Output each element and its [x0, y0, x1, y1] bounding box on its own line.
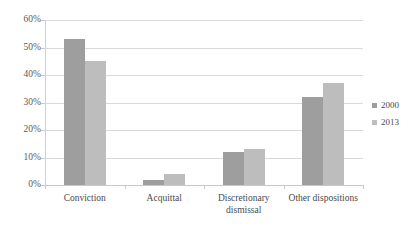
x-axis-category-label: Other dispositions — [272, 192, 376, 204]
legend-swatch-icon — [372, 120, 377, 125]
bar-2000-acquittal — [143, 180, 164, 186]
y-axis-tick-label: 50% — [7, 43, 41, 53]
x-axis-label-line: dismissal — [192, 204, 296, 216]
x-axis-tick-mark — [45, 185, 46, 189]
y-axis-tick-label: 30% — [7, 98, 41, 108]
legend-item-2000[interactable]: 2000 — [372, 97, 399, 114]
legend-item-2013[interactable]: 2013 — [372, 114, 399, 131]
bar-2000-discretionary-dismissal — [223, 152, 244, 185]
y-axis-tick-label: 20% — [7, 125, 41, 135]
bar-group — [64, 20, 106, 185]
bar-2013-conviction — [85, 61, 106, 185]
legend-label: 2000 — [381, 101, 399, 110]
x-axis-tick-mark — [204, 185, 205, 189]
y-axis-tick-label: 10% — [7, 153, 41, 163]
plot-area — [45, 20, 363, 185]
bar-group — [302, 20, 344, 185]
x-axis-label-line: Other dispositions — [272, 192, 376, 204]
x-axis-tick-mark — [284, 185, 285, 189]
bar-2013-other-dispositions — [323, 83, 344, 185]
bar-2000-conviction — [64, 39, 85, 185]
x-axis-tick-mark — [125, 185, 126, 189]
x-axis-tick-mark — [363, 185, 364, 189]
y-axis-tick-label: 60% — [7, 15, 41, 25]
legend-label: 2013 — [381, 118, 399, 127]
y-axis-tick-label: 40% — [7, 70, 41, 80]
bar-chart-figure: 0%10%20%30%40%50%60% ConvictionAcquittal… — [0, 0, 420, 231]
legend-swatch-icon — [372, 103, 377, 108]
bar-group — [223, 20, 265, 185]
y-axis-tick-label: 0% — [7, 180, 41, 190]
bar-2013-acquittal — [164, 174, 185, 185]
bar-2013-discretionary-dismissal — [244, 149, 265, 185]
bar-2000-other-dispositions — [302, 97, 323, 185]
bar-group — [143, 20, 185, 185]
legend: 20002013 — [372, 97, 399, 131]
